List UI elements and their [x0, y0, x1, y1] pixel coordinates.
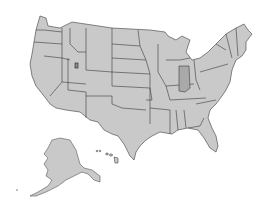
us-locator-map [0, 0, 270, 216]
state-indiana-highlighted [179, 66, 190, 92]
aleutian-dot [16, 189, 17, 190]
state-alaska [30, 138, 100, 196]
utah-marker-icon [75, 63, 78, 68]
state-hawaii [96, 150, 118, 163]
